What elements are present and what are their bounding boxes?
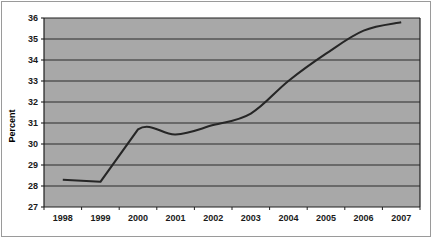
chart-figure: 36353433323130292827 1998199920002001200… (0, 0, 433, 243)
y-tick-label: 29 (28, 160, 38, 170)
y-tick-label: 30 (28, 139, 38, 149)
y-tick-label: 28 (28, 181, 38, 191)
x-tick-label: 2006 (354, 213, 374, 223)
y-axis-ticks: 36353433323130292827 (28, 13, 44, 212)
x-tick-label: 2001 (166, 213, 186, 223)
y-tick-label: 31 (28, 118, 38, 128)
x-tick-label: 2000 (128, 213, 148, 223)
y-tick-label: 27 (28, 202, 38, 212)
y-tick-label: 36 (28, 13, 38, 23)
y-tick-label: 35 (28, 34, 38, 44)
x-tick-label: 2003 (241, 213, 261, 223)
x-tick-label: 2004 (278, 213, 298, 223)
x-tick-label: 2005 (316, 213, 336, 223)
plot-area-background (44, 18, 420, 207)
line-chart-plot: 36353433323130292827 1998199920002001200… (0, 0, 433, 243)
x-tick-label: 2002 (203, 213, 223, 223)
x-tick-label: 1999 (90, 213, 110, 223)
y-tick-label: 33 (28, 76, 38, 86)
x-tick-label: 1998 (53, 213, 73, 223)
y-axis-title: Percent (7, 109, 17, 142)
x-axis-ticks: 1998199920002001200220032004200520062007 (44, 207, 420, 223)
y-tick-label: 32 (28, 97, 38, 107)
x-tick-label: 2007 (391, 213, 411, 223)
y-tick-label: 34 (28, 55, 38, 65)
